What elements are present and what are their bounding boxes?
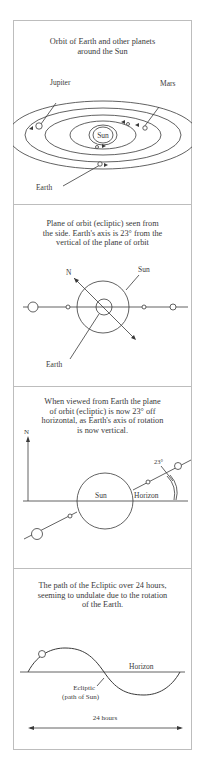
angle-leader: [161, 466, 173, 481]
direction-arrow-icon: [29, 126, 33, 130]
mercury-planet-icon: [96, 146, 99, 149]
mars-planet-icon: [143, 126, 147, 130]
jupiter-leader: [41, 103, 56, 124]
left-arrow-icon: [28, 726, 34, 730]
angle-label: 23°: [154, 458, 164, 465]
right-arrow-icon: [177, 726, 183, 730]
jupiter-planet-icon: [36, 123, 42, 129]
earth-label: Earth: [36, 183, 52, 192]
planet-icon: [170, 304, 176, 310]
planet-icon: [66, 305, 70, 309]
side-view-diagram: N Sun Earth: [13, 204, 192, 386]
ecliptic-wave-diagram: Horizon Ecliptic (path of Sun) 24 hours: [13, 568, 192, 751]
north-label: N: [66, 268, 72, 277]
mars-label: Mars: [160, 79, 175, 88]
earth-view-diagram: N Sun Horizon 23°: [13, 386, 192, 568]
earth-label: Earth: [46, 360, 62, 369]
jupiter-label: Jupiter: [50, 78, 71, 87]
north-arrow-icon: [26, 436, 30, 442]
sun-icon: [39, 651, 46, 658]
orbits-diagram: Sun Jupiter Mars Earth: [13, 20, 192, 204]
direction-arrow-icon: [104, 163, 108, 167]
panel-ecliptic-side-view: Plane of orbit (ecliptic) seen from the …: [13, 204, 192, 386]
ecliptic-curve: [28, 648, 180, 695]
panel-ecliptic-24h: The path of the Ecliptic over 24 hours, …: [13, 568, 192, 751]
panel-earth-view: When viewed from Earth the plane of orbi…: [13, 386, 192, 568]
planet-icon: [146, 480, 150, 484]
planet-icon: [68, 514, 72, 518]
direction-arrow-icon: [135, 123, 139, 127]
planet-icon: [142, 305, 146, 309]
ecliptic-sublabel: (path of Sun): [62, 693, 100, 701]
sun-leader: [126, 275, 139, 290]
sun-label: Sun: [138, 265, 150, 274]
earth-planet-icon: [98, 162, 102, 166]
sun-label: Sun: [97, 131, 109, 140]
sun-label: Sun: [95, 491, 107, 500]
panel-planet-orbits: Orbit of Earth and other planets around …: [13, 20, 192, 204]
planet-icon: [32, 529, 43, 540]
planet-icon: [175, 463, 182, 470]
venus-planet-icon: [127, 123, 130, 126]
ecliptic-leader: [97, 678, 104, 686]
ecliptic-label: Ecliptic: [73, 684, 95, 692]
horizon-label: Horizon: [134, 491, 159, 500]
horizon-label: Horizon: [129, 662, 154, 671]
north-label: N: [24, 428, 29, 436]
duration-label: 24 hours: [93, 714, 118, 722]
earth-axis-line: [74, 278, 135, 339]
planet-icon: [28, 302, 38, 312]
earth-leader: [70, 314, 99, 359]
